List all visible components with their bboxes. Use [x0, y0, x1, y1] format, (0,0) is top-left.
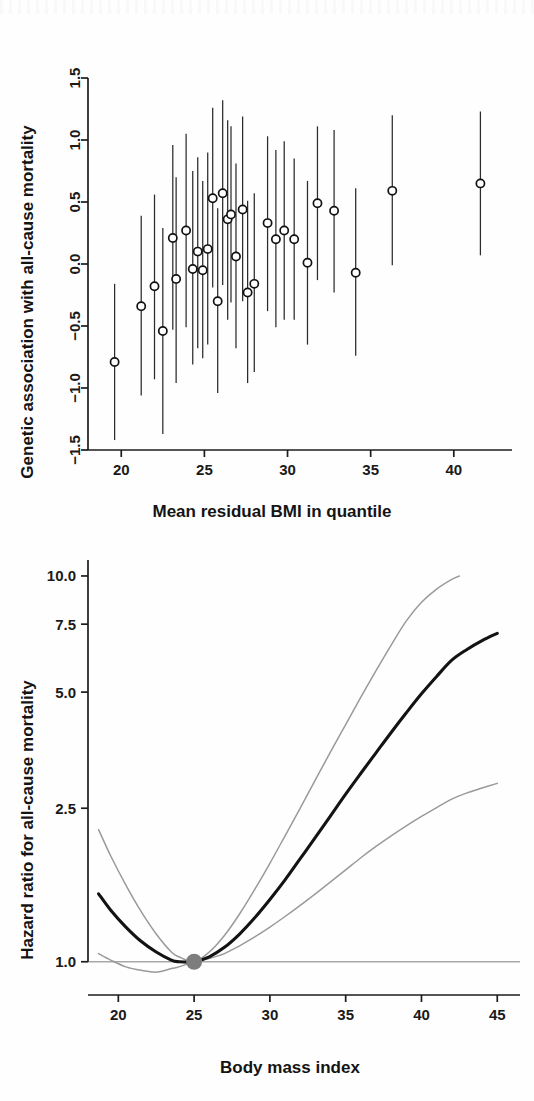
data-point-marker	[250, 280, 258, 288]
scatter-y-tick-label: −1.0	[66, 373, 83, 403]
data-point-marker	[150, 282, 158, 290]
scatter-x-tick-label: 25	[196, 461, 213, 478]
scatter-x-tick-group: 2025303540	[113, 450, 462, 478]
curve-y-tick-label: 5.0	[55, 684, 76, 701]
data-point-marker	[214, 297, 222, 305]
data-point-marker	[199, 266, 207, 274]
scan-artifact-band	[0, 0, 534, 14]
referent-point-marker	[186, 954, 202, 970]
curve-x-axis-title: Body mass index	[220, 1058, 360, 1077]
scatter-y-tick-label: −0.5	[66, 311, 83, 341]
curve-x-tick-label: 40	[413, 1006, 430, 1023]
scatter-plot-canvas: Genetic association with all-cause morta…	[0, 46, 534, 530]
curve-x-tick-label: 30	[262, 1006, 279, 1023]
curve-x-tick-label: 35	[337, 1006, 354, 1023]
scatter-y-tick-group: −1.5−1.0−0.50.00.51.01.5	[66, 68, 88, 465]
data-point-marker	[204, 245, 212, 253]
figure-page: Genetic association with all-cause morta…	[0, 0, 534, 1101]
scatter-point-group	[111, 179, 485, 366]
scatter-y-axis-title: Genetic association with all-cause morta…	[18, 125, 37, 479]
data-point-marker	[169, 234, 177, 242]
data-point-marker	[476, 179, 484, 187]
data-point-marker	[352, 269, 360, 277]
panel-genetic-association-scatter: Genetic association with all-cause morta…	[0, 46, 534, 530]
data-point-marker	[219, 189, 227, 197]
data-point-marker	[172, 275, 180, 283]
data-point-marker	[209, 194, 217, 202]
data-point-marker	[239, 205, 247, 213]
curve-y-axis-title: Hazard ratio for all-cause mortality	[18, 680, 37, 960]
curve-y-tick-label: 10.0	[47, 567, 76, 584]
upper-confidence-curve	[99, 576, 460, 962]
scatter-x-tick-label: 40	[445, 461, 462, 478]
curve-x-tick-group: 202530354045	[110, 995, 506, 1023]
data-point-marker	[290, 235, 298, 243]
scatter-y-tick-label: 0.5	[66, 192, 83, 213]
scatter-x-tick-label: 35	[362, 461, 379, 478]
curve-x-tick-label: 20	[110, 1006, 127, 1023]
data-point-marker	[313, 199, 321, 207]
curve-x-tick-label: 25	[186, 1006, 203, 1023]
data-point-marker	[137, 302, 145, 310]
scatter-y-tick-label: 1.5	[66, 68, 83, 89]
data-point-marker	[182, 226, 190, 234]
curve-y-tick-label: 2.5	[55, 800, 76, 817]
data-point-marker	[194, 248, 202, 256]
curve-y-tick-group: 1.02.55.07.510.0	[47, 567, 88, 970]
data-point-marker	[280, 226, 288, 234]
curve-y-tick-label: 7.5	[55, 616, 76, 633]
curve-x-tick-label: 45	[489, 1006, 506, 1023]
scatter-y-tick-label: 0.0	[66, 254, 83, 275]
scatter-y-tick-label: 1.0	[66, 130, 83, 151]
data-point-marker	[330, 207, 338, 215]
data-point-marker	[227, 210, 235, 218]
data-point-marker	[303, 259, 311, 267]
data-point-marker	[189, 265, 197, 273]
data-point-marker	[159, 327, 167, 335]
data-point-marker	[388, 187, 396, 195]
data-point-marker	[263, 219, 271, 227]
panel-hazard-ratio-curve: Hazard ratio for all-cause mortality Bod…	[0, 530, 534, 1101]
scatter-y-tick-label: −1.5	[66, 435, 83, 465]
data-point-marker	[244, 288, 252, 296]
scatter-x-tick-label: 20	[113, 461, 130, 478]
data-point-marker	[111, 358, 119, 366]
data-point-marker	[272, 235, 280, 243]
hazard-curve-canvas: Hazard ratio for all-cause mortality Bod…	[0, 530, 534, 1101]
hazard-ratio-curve	[99, 633, 498, 962]
data-point-marker	[232, 252, 240, 260]
scatter-error-bar-group	[115, 100, 481, 440]
scatter-x-axis-title: Mean residual BMI in quantile	[153, 502, 392, 521]
curve-y-tick-label: 1.0	[55, 953, 76, 970]
scatter-x-tick-label: 30	[279, 461, 296, 478]
